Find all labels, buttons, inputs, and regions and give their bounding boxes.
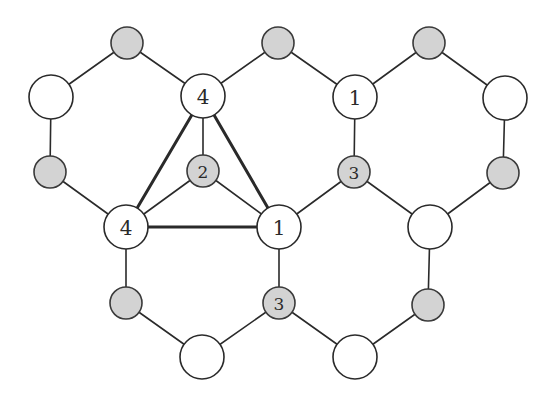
gray-node-g4 [34,156,66,188]
node-circle [413,27,445,59]
node-label: 4 [197,85,210,109]
node-label: 3 [349,163,360,183]
gray-node-g8 [110,287,142,319]
white-node-w9 [333,335,377,379]
white-node-w2: 4 [181,74,225,118]
white-node-w4 [483,76,527,120]
white-node-w6: 1 [257,205,301,249]
gray-node-g1 [111,27,143,59]
white-node-w7 [408,205,452,249]
node-circle [34,156,66,188]
node-circle [110,287,142,319]
gray-node-g3 [413,27,445,59]
white-node-w5: 4 [104,205,148,249]
node-label: 1 [273,216,286,240]
gray-node-g6: 3 [338,156,370,188]
node-circle [262,27,294,59]
node-circle [483,76,527,120]
nodes-layer: 4123413 [29,27,527,379]
node-circle [487,157,519,189]
gray-node-g5: 2 [187,155,219,187]
white-node-w8 [180,335,224,379]
hexagonal-lattice-graph: 4123413 [0,0,550,401]
node-circle [408,205,452,249]
gray-node-g9: 3 [263,287,295,319]
white-node-w1 [29,75,73,119]
node-circle [412,289,444,321]
node-circle [29,75,73,119]
node-label: 4 [120,216,133,240]
white-node-w3: 1 [333,75,377,119]
node-label: 3 [274,294,285,314]
node-circle [180,335,224,379]
node-circle [111,27,143,59]
node-label: 1 [349,86,362,110]
gray-node-g10 [412,289,444,321]
node-label: 2 [198,162,209,182]
node-circle [333,335,377,379]
gray-node-g2 [262,27,294,59]
gray-node-g7 [487,157,519,189]
